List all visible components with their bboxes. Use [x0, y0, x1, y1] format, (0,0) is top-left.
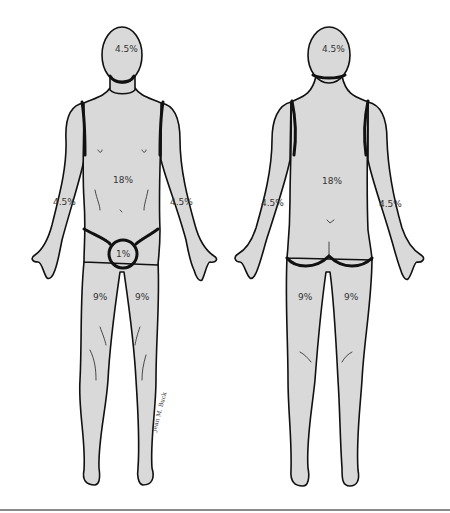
front-genital-label: 1% — [116, 249, 131, 259]
back-left-leg-label: 9% — [298, 292, 313, 302]
front-head-label: 4.5% — [115, 44, 138, 54]
front-trunk-label: 18% — [113, 175, 133, 185]
front-right-arm-label: 4.5% — [53, 197, 76, 207]
front-right-arm — [32, 103, 84, 279]
back-torso — [287, 76, 372, 260]
front-left-leg-label: 9% — [135, 292, 150, 302]
back-right-arm-label: 4.5% — [379, 199, 402, 209]
back-trunk-label: 18% — [322, 176, 342, 186]
bottom-divider — [0, 509, 450, 511]
back-figure: 4.5% 18% 4.5% 4.5% 9% 9% — [235, 27, 423, 486]
back-right-leg-label: 9% — [344, 292, 359, 302]
back-left-arm — [235, 102, 291, 278]
front-figure: 4.5% 18% 4.5% 4.5% 1% 9% 9% Jean M. Buck — [32, 27, 216, 485]
front-right-leg-label: 9% — [93, 292, 108, 302]
front-left-arm-label: 4.5% — [170, 197, 193, 207]
rule-of-nines-diagram: 4.5% 18% 4.5% 4.5% 1% 9% 9% Jean M. Buck… — [0, 0, 450, 513]
back-left-arm-label: 4.5% — [261, 198, 284, 208]
back-head-label: 4.5% — [322, 44, 345, 54]
front-left-arm — [161, 103, 217, 280]
back-right-arm — [368, 102, 424, 279]
front-head — [102, 27, 142, 83]
